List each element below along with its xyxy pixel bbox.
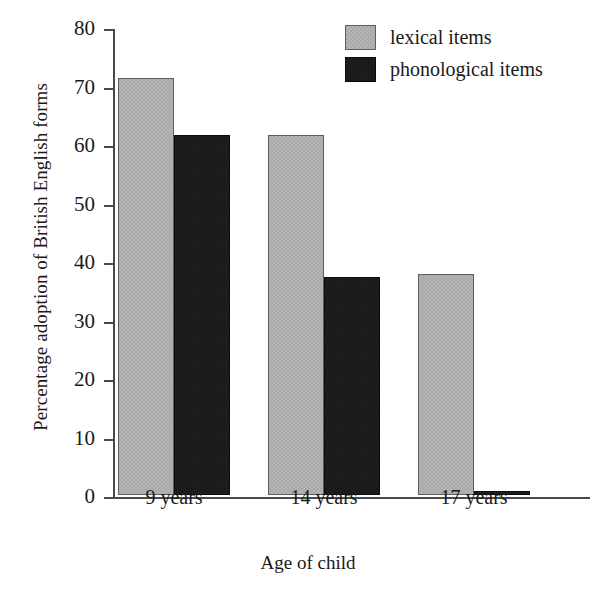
y-axis-tick-label: 0 [85,484,96,509]
y-axis-tick-mark [104,380,115,382]
y-axis-tick-label: 70 [74,74,95,99]
bar-chart-figure: Percentage adoption of British English f… [0,0,616,607]
y-axis-tick-label: 50 [74,191,95,216]
y-axis-tick-mark [104,146,115,148]
bar-14-years-lexical [268,135,324,495]
y-axis-tick: 30 [104,322,115,324]
x-axis-category-label: 14 years [290,486,357,509]
bar-9-years-lexical [118,78,174,495]
y-axis-tick: 0 [104,497,115,499]
y-axis-tick-label: 10 [74,425,95,450]
bar-14-years-phonological [324,277,380,495]
y-axis-tick-label: 80 [74,16,95,41]
y-axis-tick-mark [104,205,115,207]
y-axis-tick-mark [104,263,115,265]
x-axis-category-label: 17 years [440,486,507,509]
y-axis-tick-mark [104,497,115,499]
y-axis-tick: 50 [104,205,115,207]
y-axis-tick: 20 [104,380,115,382]
y-axis-tick-label: 30 [74,308,95,333]
y-axis-tick: 80 [104,29,115,31]
x-axis-category-label: 9 years [145,486,202,509]
y-axis-tick-mark [104,88,115,90]
bar-17-years-lexical [418,274,474,495]
y-axis-tick-label: 20 [74,367,95,392]
y-axis-tick-mark [104,29,115,31]
y-axis-tick-mark [104,439,115,441]
y-axis-tick: 70 [104,88,115,90]
y-axis-tick: 60 [104,146,115,148]
y-axis-title: Percentage adoption of British English f… [22,22,60,492]
bar-9-years-phonological [174,135,230,495]
y-axis-tick-mark [104,322,115,324]
y-axis-tick: 40 [104,263,115,265]
y-axis-tick-label: 60 [74,133,95,158]
y-axis-tick-label: 40 [74,250,95,275]
plot-area: 80706050403020100 [113,29,590,497]
x-axis-title: Age of child [0,552,616,574]
y-axis-tick: 10 [104,439,115,441]
